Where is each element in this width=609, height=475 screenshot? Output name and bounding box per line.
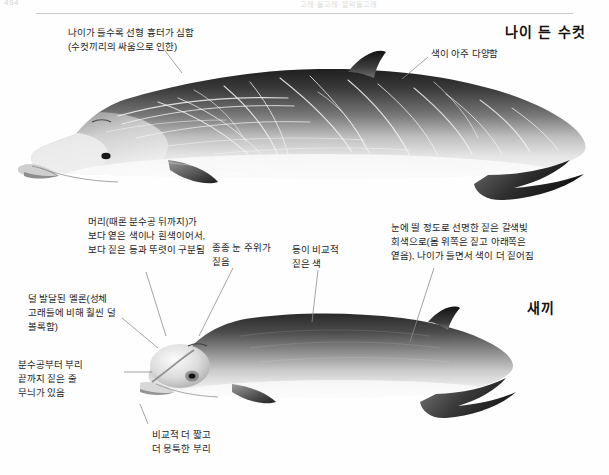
annotation-color-variable: 색이 아주 다양함 <box>431 47 581 61</box>
adult-male-whale-illustration <box>18 42 593 207</box>
specimen-label-calf: 새끼 <box>527 297 555 317</box>
annotation-melon: 덜 발달된 멜론(성체 고래들에 비해 훨씬 덜 볼록함) <box>28 292 154 334</box>
calf-whale-eye <box>189 373 196 378</box>
calf-whale-illustration <box>140 300 570 428</box>
adult-whale-eye <box>101 153 110 159</box>
annotation-body-color: 눈에 띌 정도로 선명한 짙은 갈색빛 회색으로(몸 위쪽은 짙고 아래쪽은 옅… <box>391 221 566 263</box>
book-page: 494 고래·돌고래·알락돌고래 <box>0 0 609 475</box>
annotation-head-lighter: 머리(때론 분수공 뒤까지)가 보다 옅은 색이나 흰색이어서, 보다 짙은 등… <box>88 215 228 257</box>
header-divider-rule <box>36 13 573 14</box>
annotation-dark-eye-patch: 종종 눈 주위가 짙음 <box>212 241 302 269</box>
calf-whale-melon <box>150 344 210 388</box>
page-folio-number: 494 <box>4 0 64 7</box>
annotation-scarring: 나이가 들수록 선형 흉터가 심함 (수컷끼리의 싸움으로 인한) <box>68 26 283 54</box>
running-head-title: 고래·돌고래·알락돌고래 <box>300 0 560 9</box>
annotation-blowhole-stripe: 분수공부터 부리 끝까지 짙은 줄 무늬가 있음 <box>18 358 120 400</box>
annotation-dark-back: 등이 비교적 짙은 색 <box>292 243 372 271</box>
specimen-label-adult-male: 나이 든 수컷 <box>505 21 586 41</box>
annotation-shorter-beak: 비교적 더 짧고 더 뭉툭한 부리 <box>152 428 262 456</box>
